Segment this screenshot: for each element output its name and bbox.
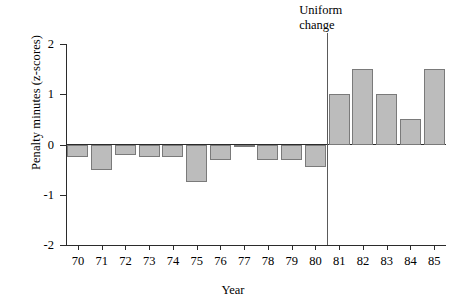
bar <box>139 145 160 158</box>
x-tick-mark <box>292 245 293 250</box>
bar <box>91 145 112 170</box>
y-axis-title: Penalty minutes (z-scores) <box>29 3 44 203</box>
x-tick-mark <box>149 245 150 250</box>
penalty-minutes-bar-chart: Penalty minutes (z-scores) 210-1-2 70717… <box>0 0 466 304</box>
x-tick-mark <box>173 245 174 250</box>
bar <box>234 145 255 148</box>
x-tick-mark <box>244 245 245 250</box>
x-tick-mark <box>339 245 340 250</box>
x-tick-mark <box>197 245 198 250</box>
y-tick-label: 0 <box>28 139 54 152</box>
x-tick-label: 85 <box>419 255 449 268</box>
bar <box>210 145 231 160</box>
y-tick-label: 2 <box>28 38 54 51</box>
bar <box>376 94 397 144</box>
y-tick-mark <box>60 245 67 246</box>
y-tick-mark <box>60 145 67 146</box>
x-tick-mark <box>315 245 316 250</box>
y-tick-label: -2 <box>28 239 54 252</box>
x-tick-mark <box>410 245 411 250</box>
bar <box>352 69 373 144</box>
x-tick-mark <box>102 245 103 250</box>
y-tick-mark <box>60 44 67 45</box>
y-tick-label: 1 <box>28 88 54 101</box>
x-tick-mark <box>78 245 79 250</box>
x-axis-title: Year <box>0 283 466 298</box>
y-tick-mark <box>60 195 67 196</box>
bar <box>424 69 445 144</box>
x-tick-mark <box>363 245 364 250</box>
uniform-change-annotation-label: Uniform change <box>299 3 342 34</box>
bar <box>281 145 302 160</box>
bar <box>115 145 136 155</box>
bar <box>329 94 350 144</box>
x-axis-line <box>66 245 446 246</box>
x-tick-mark <box>220 245 221 250</box>
uniform-change-marker-line <box>327 33 328 245</box>
x-tick-mark <box>268 245 269 250</box>
bar <box>162 145 183 158</box>
bar <box>67 145 88 158</box>
bar <box>257 145 278 160</box>
y-tick-label: -1 <box>28 189 54 202</box>
x-tick-mark <box>434 245 435 250</box>
bar <box>305 145 326 168</box>
y-tick-mark <box>60 94 67 95</box>
x-tick-mark <box>125 245 126 250</box>
bar <box>186 145 207 183</box>
x-tick-mark <box>387 245 388 250</box>
bar <box>400 119 421 144</box>
